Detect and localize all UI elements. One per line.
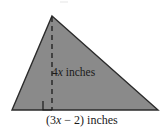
base-label-open: (3 (46, 113, 56, 127)
triangle-shape (12, 16, 158, 110)
height-label-suffix: inches (63, 66, 95, 78)
base-label-middle: − 2) (61, 113, 87, 127)
height-label: 4x inches (52, 67, 95, 79)
base-label-suffix: inches (87, 113, 118, 127)
triangle-geometry-figure: 4x inches (3x − 2) inches (0, 0, 166, 133)
base-label: (3x − 2) inches (46, 114, 118, 126)
